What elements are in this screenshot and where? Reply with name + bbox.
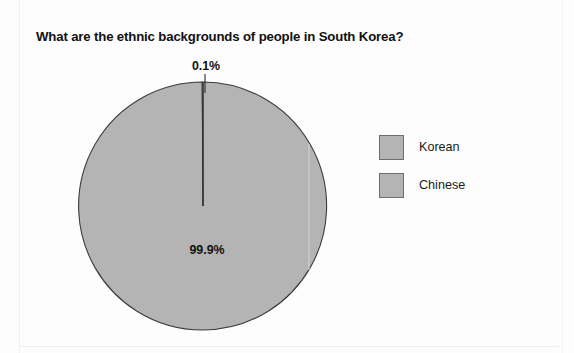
legend-swatch-chinese (379, 173, 404, 198)
legend-item-chinese[interactable]: Chinese (379, 166, 465, 204)
pie-graphic (0, 0, 574, 353)
pie-chart-figure: What are the ethnic backgrounds of peopl… (0, 0, 574, 353)
legend-label-korean: Korean (419, 140, 460, 154)
legend-swatch-korean (379, 135, 404, 160)
legend-label-chinese: Chinese (419, 178, 465, 192)
slice-label-korean: 99.9% (167, 243, 247, 257)
legend: Korean Chinese (379, 128, 465, 204)
legend-item-korean[interactable]: Korean (379, 128, 465, 166)
slice-label-chinese: 0.1% (178, 59, 234, 73)
